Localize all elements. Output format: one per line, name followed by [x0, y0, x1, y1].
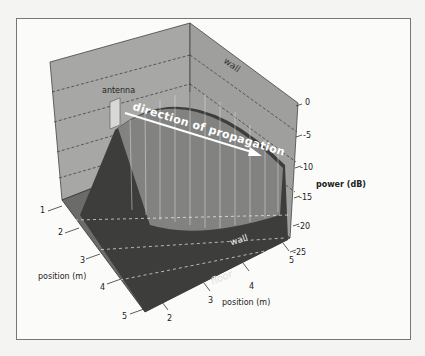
z-tick: -5 [303, 131, 311, 140]
bottom-tick: 5 [289, 256, 294, 265]
left-tick: 4 [100, 283, 105, 292]
z-tick: -10 [300, 163, 313, 172]
bottom-axis-label: position (m) [222, 298, 270, 307]
bottom-tick: 3 [208, 296, 213, 305]
bottom-tick: 4 [249, 282, 254, 291]
antenna-label: antenna [102, 86, 135, 95]
left-tick: 2 [58, 228, 63, 237]
z-axis-label: power (dB) [316, 180, 366, 189]
z-tick: -15 [299, 193, 312, 202]
left-tick: 3 [80, 256, 85, 265]
z-tick: -20 [297, 222, 310, 231]
bottom-tick: 2 [167, 314, 172, 323]
z-tick: -25 [293, 248, 306, 257]
left-axis-label: position (m) [38, 272, 86, 281]
z-tick: 0 [305, 98, 310, 107]
left-tick: 1 [40, 206, 45, 215]
left-tick: 5 [122, 312, 127, 321]
antenna-icon [110, 98, 120, 129]
